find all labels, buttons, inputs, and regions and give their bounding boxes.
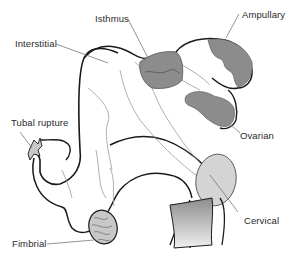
label-isthmus: Isthmus bbox=[95, 14, 129, 24]
label-interstitial: Interstitial bbox=[15, 39, 57, 49]
interior-lines bbox=[62, 55, 215, 206]
label-ovarian: Ovarian bbox=[240, 131, 274, 141]
ectopic-pregnancy-diagram: Isthmus Ampullary Interstitial Tubal rup… bbox=[0, 0, 295, 256]
ovarian-site bbox=[185, 92, 234, 127]
lower-lobe-outline bbox=[33, 158, 98, 232]
isthmus-site bbox=[140, 52, 183, 89]
cervical-canal bbox=[170, 198, 213, 248]
label-cervical: Cervical bbox=[244, 216, 279, 226]
label-ampullary: Ampullary bbox=[242, 10, 285, 20]
label-fimbrial: Fimbrial bbox=[12, 239, 47, 249]
tubal-rupture-loop bbox=[40, 140, 70, 160]
tubal-rupture-site bbox=[28, 138, 42, 160]
label-tubal-rupture: Tubal rupture bbox=[11, 118, 68, 128]
